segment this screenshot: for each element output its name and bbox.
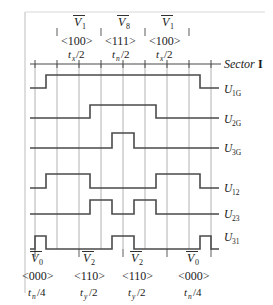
bottom-time-3-div: /2: [137, 286, 146, 298]
bottom-time-2-div: /2: [89, 286, 98, 298]
bottom-time-2-sub: y: [83, 292, 88, 301]
u3g-label-sub: 3G: [232, 148, 242, 157]
bottom-time-3-sub: y: [131, 292, 136, 301]
bottom-vector-2-subscript: 2: [91, 258, 95, 267]
top-vector-2-subscript: 8: [126, 22, 130, 31]
top-state-1: <100>: [61, 34, 93, 48]
sector-text: Sector: [224, 57, 255, 71]
bottom-state-3: <110>: [122, 269, 153, 283]
bottom-state-2: <110>: [74, 269, 105, 283]
bottom-vector-1-subscript: 0: [39, 258, 43, 267]
bottom-state-4: <000>: [178, 269, 210, 283]
top-state-2: <111>: [105, 34, 136, 48]
u23-label-sub: 23: [232, 214, 240, 223]
top-vector-1-subscript: 1: [82, 22, 86, 31]
top-time-2-div: /2: [121, 48, 130, 60]
top-time-2-sub: n: [116, 54, 120, 63]
sector-label: Sector I: [224, 57, 263, 71]
svpwm-switching-diagram: V 1 <100> V 8 <111> V 1 <100> t x /2 t n…: [0, 0, 273, 305]
top-time-1-div: /2: [76, 48, 85, 60]
sector-number: I: [258, 57, 263, 71]
u31-label-sub: 31: [232, 237, 240, 246]
bottom-time-1-sub: n: [32, 292, 36, 301]
bottom-time-1-div: /4: [37, 286, 46, 298]
top-state-3: <100>: [149, 34, 181, 48]
u1g-label-sub: 1G: [232, 89, 242, 98]
u2g-label-sub: 2G: [232, 119, 242, 128]
bottom-time-4-sub: n: [188, 292, 192, 301]
top-vector-3-subscript: 1: [170, 22, 174, 31]
diagram-canvas: V 1 <100> V 8 <111> V 1 <100> t x /2 t n…: [0, 0, 273, 305]
u12-label-sub: 12: [232, 188, 240, 197]
bottom-time-4-div: /4: [193, 286, 202, 298]
bottom-vector-4-subscript: 0: [195, 258, 199, 267]
bottom-state-1: <000>: [22, 269, 54, 283]
bottom-vector-3-subscript: 2: [139, 258, 143, 267]
top-time-3-div: /2: [164, 48, 173, 60]
